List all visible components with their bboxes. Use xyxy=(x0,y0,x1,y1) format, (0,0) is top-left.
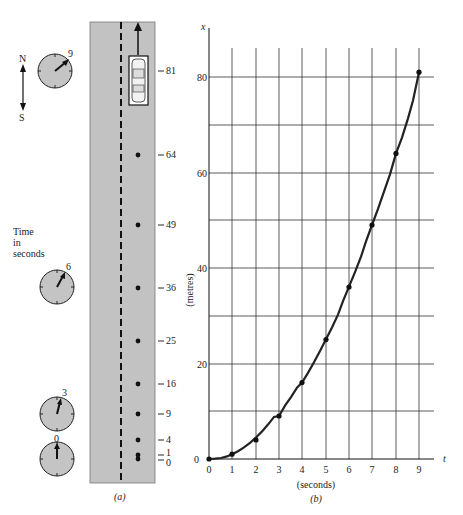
clock-icon-6s: 6 xyxy=(40,261,74,304)
x-tick-1: 1 xyxy=(230,464,235,475)
clock-icon-3s: 3 xyxy=(40,387,74,431)
clock-label-9: 9 xyxy=(68,48,73,59)
road-mark-0: 0 xyxy=(166,457,171,468)
y-axis-symbol: x xyxy=(200,21,206,32)
x-axis-symbol: t xyxy=(443,453,446,464)
panel-a-caption: (a) xyxy=(114,491,126,503)
clock-label-6: 6 xyxy=(66,261,71,272)
compass-arrow-icon: N S xyxy=(19,53,26,123)
road-mark-64: 64 xyxy=(166,149,176,160)
compass-north-label: N xyxy=(19,53,26,64)
clock-icon-9s: 9 xyxy=(38,48,73,88)
road-mark-4: 4 xyxy=(166,434,171,445)
panel-b-chart: x t 0 20 40 60 80 (metres) 0 1 2 3 4 5 6… xyxy=(184,21,446,505)
x-tick-2: 2 xyxy=(254,464,259,475)
x-axis-unit: (seconds) xyxy=(297,479,335,491)
chart-data-points xyxy=(206,70,421,462)
road-mark-9: 9 xyxy=(166,408,171,419)
x-tick-4: 4 xyxy=(300,464,305,475)
panel-a: N S Time in seconds 9 6 xyxy=(13,22,176,503)
motion-figure: N S Time in seconds 9 6 xyxy=(0,0,463,515)
road-mark-36: 36 xyxy=(166,282,176,293)
time-label-line3: seconds xyxy=(13,248,45,259)
panel-b-caption: (b) xyxy=(310,493,322,505)
y-tick-80: 80 xyxy=(197,72,207,83)
road-mark-labels xyxy=(158,71,164,460)
x-tick-5: 5 xyxy=(324,464,329,475)
time-label-line1: Time xyxy=(13,226,34,237)
road-mark-49: 49 xyxy=(166,219,176,230)
road-mark-16: 16 xyxy=(166,378,176,389)
position-curve xyxy=(209,72,419,459)
y-tick-0: 0 xyxy=(194,454,199,465)
y-tick-40: 40 xyxy=(197,263,207,274)
time-label-line2: in xyxy=(13,237,21,248)
road-mark-81: 81 xyxy=(166,65,176,76)
y-axis-unit: (metres) xyxy=(184,273,196,306)
x-tick-7: 7 xyxy=(370,464,375,475)
y-tick-20: 20 xyxy=(197,359,207,370)
x-tick-9: 9 xyxy=(417,464,422,475)
y-tick-60: 60 xyxy=(197,168,207,179)
clock-label-3: 3 xyxy=(62,387,67,398)
x-tick-3: 3 xyxy=(277,464,282,475)
x-tick-8: 8 xyxy=(394,464,399,475)
x-tick-0: 0 xyxy=(207,464,212,475)
clock-icon-0s: 0 xyxy=(40,433,74,476)
clock-label-0: 0 xyxy=(54,433,59,444)
chart-grid xyxy=(209,48,434,459)
compass-south-label: S xyxy=(19,112,25,123)
road-mark-25: 25 xyxy=(166,335,176,346)
x-tick-6: 6 xyxy=(347,464,352,475)
